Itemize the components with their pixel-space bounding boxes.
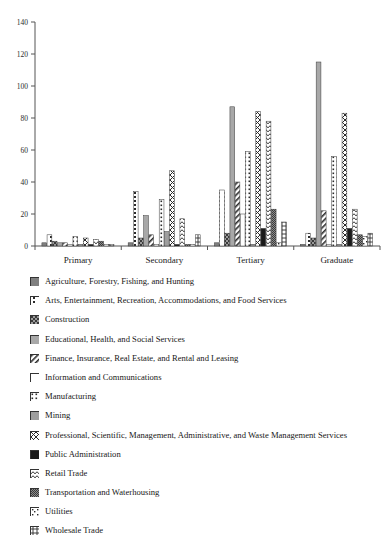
bar <box>368 233 373 246</box>
category-label: Tertiary <box>236 255 265 265</box>
bar <box>94 240 99 246</box>
bar <box>52 241 57 246</box>
legend-swatch-icon <box>30 354 39 363</box>
bar <box>311 238 316 246</box>
y-tick-label: 100 <box>17 82 29 91</box>
bar <box>214 243 219 246</box>
bar <box>133 192 138 246</box>
bar <box>175 244 180 246</box>
bar <box>195 235 200 246</box>
y-tick-label: 80 <box>21 114 29 123</box>
legend-swatch-icon <box>30 431 39 440</box>
bar <box>63 243 68 246</box>
legend-swatch-icon <box>30 450 39 459</box>
bar <box>251 244 256 246</box>
bar <box>83 238 88 246</box>
bar <box>57 243 62 246</box>
legend-swatch-icon <box>30 469 39 478</box>
bar <box>306 233 311 246</box>
bar <box>271 209 276 246</box>
bar <box>321 211 326 246</box>
bar <box>358 235 363 246</box>
legend-item-label: Agriculture, Forestry, Fishing, and Hunt… <box>45 272 194 291</box>
bar <box>332 156 337 246</box>
bar <box>225 233 230 246</box>
legend-item-label: Transportation and Waterhousing <box>45 483 159 502</box>
bar <box>164 232 169 246</box>
legend-swatch-icon <box>30 392 39 401</box>
legend-swatch-icon <box>30 335 39 344</box>
bar <box>352 209 357 246</box>
bar <box>42 243 47 246</box>
chart-plot-area: 020406080100120140 PrimarySecondaryTerti… <box>0 0 387 272</box>
y-tick-label: 60 <box>21 146 29 155</box>
legend-item[interactable]: Mining <box>30 406 387 425</box>
y-tick-label: 40 <box>21 178 29 187</box>
legend-swatch-icon <box>30 296 39 305</box>
bar <box>159 200 164 246</box>
bar <box>104 244 109 246</box>
bar <box>363 236 368 246</box>
bar <box>109 244 114 246</box>
legend-item[interactable]: Educational, Health, and Social Services <box>30 330 387 349</box>
y-tick-label: 140 <box>17 18 29 27</box>
legend-swatch-icon <box>30 277 39 286</box>
legend-item[interactable]: Public Administration <box>30 445 387 464</box>
legend-item-label: Public Administration <box>45 445 121 464</box>
bar <box>230 107 235 246</box>
y-tick-label: 0 <box>24 242 28 251</box>
x-axis <box>35 246 380 250</box>
legend-swatch-icon <box>30 488 39 497</box>
legend-item[interactable]: Utilities <box>30 502 387 521</box>
legend-item-label: Mining <box>45 406 70 425</box>
legend-item-label: Arts, Entertainment, Recreation, Accommo… <box>45 291 287 310</box>
bar <box>347 228 352 246</box>
legend-item[interactable]: Manufacturing <box>30 387 387 406</box>
bar <box>282 222 287 246</box>
bar <box>99 241 104 246</box>
legend-swatch-icon <box>30 373 39 382</box>
legend-item[interactable]: Transportation and Waterhousing <box>30 483 387 502</box>
legend-item[interactable]: Wholesale Trade <box>30 521 387 539</box>
legend-item-label: Construction <box>45 310 89 329</box>
bar <box>220 190 225 246</box>
bar <box>301 244 306 246</box>
y-axis: 020406080100120140 <box>17 18 35 251</box>
y-tick-label: 120 <box>17 50 29 59</box>
bar <box>154 244 159 246</box>
bar <box>337 244 342 246</box>
bar <box>342 113 347 246</box>
bar <box>78 244 83 246</box>
legend-item[interactable]: Finance, Insurance, Real Estate, and Ren… <box>30 349 387 368</box>
legend-item[interactable]: Construction <box>30 310 387 329</box>
bar <box>73 236 78 246</box>
legend-item[interactable]: Retail Trade <box>30 464 387 483</box>
legend-item-label: Information and Communications <box>45 368 161 387</box>
category-axis-labels: PrimarySecondaryTertiaryGraduate <box>64 255 354 265</box>
chart-legend: Agriculture, Forestry, Fishing, and Hunt… <box>0 272 387 527</box>
legend-item-label: Retail Trade <box>45 464 87 483</box>
legend-swatch-icon <box>30 526 39 535</box>
bar <box>235 182 240 246</box>
bar <box>266 121 271 246</box>
bar <box>149 235 154 246</box>
bar <box>190 244 195 246</box>
legend-item[interactable]: Professional, Scientific, Management, Ad… <box>30 426 387 445</box>
legend-item-label: Wholesale Trade <box>45 521 103 539</box>
legend-item-label: Professional, Scientific, Management, Ad… <box>45 426 347 445</box>
legend-item[interactable]: Arts, Entertainment, Recreation, Accommo… <box>30 291 387 310</box>
bar <box>144 216 149 246</box>
bar <box>240 214 245 246</box>
bar <box>47 235 52 246</box>
bar <box>185 244 190 246</box>
bar <box>245 152 250 246</box>
legend-item[interactable]: Information and Communications <box>30 368 387 387</box>
bar <box>128 243 133 246</box>
legend-item[interactable]: Agriculture, Forestry, Fishing, and Hunt… <box>30 272 387 291</box>
category-label: Primary <box>64 255 93 265</box>
bar <box>316 62 321 246</box>
bar <box>180 219 185 246</box>
y-tick-label: 20 <box>21 210 29 219</box>
legend-item-label: Manufacturing <box>45 387 96 406</box>
legend-item-label: Finance, Insurance, Real Estate, and Ren… <box>45 349 238 368</box>
